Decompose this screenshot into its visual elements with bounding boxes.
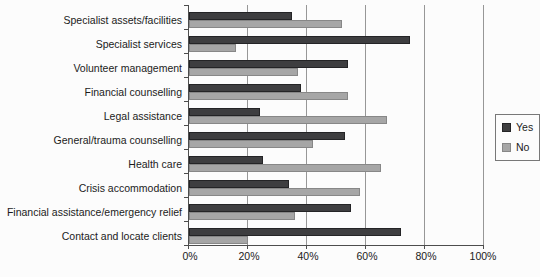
yes-bar [189, 180, 289, 188]
yes-bar [189, 156, 263, 164]
x-axis-tick [365, 245, 366, 249]
legend-swatch-yes-icon [502, 123, 511, 132]
y-axis-tick [184, 197, 188, 198]
y-axis-tick [184, 5, 188, 6]
no-bar [189, 44, 236, 52]
no-bar [189, 92, 348, 100]
category-label: Health care [0, 157, 182, 171]
yes-bar [189, 108, 260, 116]
x-axis-tick [247, 245, 248, 249]
x-tick-label-60: 60% [345, 250, 389, 263]
y-axis-tick [184, 245, 188, 246]
y-axis-tick [184, 173, 188, 174]
legend-label-yes: Yes [516, 122, 533, 133]
legend: Yes No [495, 114, 540, 161]
category-label: Specialist assets/facilities [0, 13, 182, 27]
category-label: General/trauma counselling [0, 133, 182, 147]
legend-item-no: No [502, 142, 533, 153]
x-axis-tick [188, 245, 189, 249]
yes-bar [189, 228, 401, 236]
y-axis-tick [184, 53, 188, 54]
y-axis-tick [184, 77, 188, 78]
no-bar [189, 116, 387, 124]
no-bar [189, 140, 313, 148]
y-axis-tick [184, 125, 188, 126]
legend-item-yes: Yes [502, 122, 533, 133]
yes-bar [189, 204, 351, 212]
legend-label-no: No [516, 142, 529, 153]
category-label: Volunteer management [0, 61, 182, 75]
x-tick-label-40: 40% [286, 250, 330, 263]
legend-swatch-no-icon [502, 143, 511, 152]
no-bar [189, 212, 295, 220]
yes-bar [189, 12, 292, 20]
x-axis-tick [306, 245, 307, 249]
no-bar [189, 164, 381, 172]
gridline-100 [483, 5, 484, 245]
no-bar [189, 20, 342, 28]
x-tick-label-20: 20% [227, 250, 271, 263]
x-tick-label-80: 80% [404, 250, 448, 263]
category-label: Legal assistance [0, 109, 182, 123]
category-label: Financial assistance/emergency relief [0, 205, 182, 219]
x-axis-line [188, 245, 484, 246]
yes-bar [189, 36, 410, 44]
y-axis-tick [184, 149, 188, 150]
yes-bar [189, 60, 348, 68]
no-bar [189, 68, 298, 76]
yes-bar [189, 84, 301, 92]
x-axis-tick [424, 245, 425, 249]
bar-chart: 0% 20% 40% 60% 80% 100% Yes No Specialis… [0, 0, 540, 277]
no-bar [189, 236, 248, 244]
category-label: Contact and locate clients [0, 229, 182, 243]
gridline-80 [424, 5, 425, 245]
category-label: Crisis accommodation [0, 181, 182, 195]
category-label: Specialist services [0, 37, 182, 51]
x-tick-label-0: 0% [168, 250, 212, 263]
category-label: Financial counselling [0, 85, 182, 99]
y-axis-tick [184, 29, 188, 30]
no-bar [189, 188, 360, 196]
y-axis-tick [184, 221, 188, 222]
yes-bar [189, 132, 345, 140]
x-tick-label-100: 100% [461, 250, 505, 263]
x-axis-tick [483, 245, 484, 249]
y-axis-tick [184, 101, 188, 102]
